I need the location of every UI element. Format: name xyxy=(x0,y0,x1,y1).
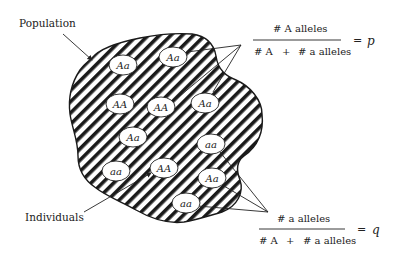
genotype-label: Aa xyxy=(125,132,139,143)
q-denominator-left: # A xyxy=(259,235,279,246)
q-denominator-right: # a alleles xyxy=(303,235,356,246)
genotype-label: Aa xyxy=(204,173,218,184)
population-label: Population xyxy=(19,17,76,29)
genotype-label: Aa xyxy=(197,98,211,109)
q-denominator-plus: + xyxy=(286,235,294,246)
individual-aa: AA xyxy=(150,158,178,178)
individual-aa: Aa xyxy=(159,47,187,67)
individual-aa: AA xyxy=(106,94,134,114)
genotype-label: Aa xyxy=(115,60,129,71)
p-denominator-left: # A xyxy=(254,46,274,57)
p-variable: p xyxy=(367,34,375,48)
genotype-label: aa xyxy=(205,139,217,150)
formula-q: # a alleles # A + # a alleles = q xyxy=(259,213,380,246)
population-arrow xyxy=(63,34,92,60)
q-equals: = xyxy=(357,223,366,236)
individual-aa: aa xyxy=(172,193,200,213)
p-numerator: # A alleles xyxy=(273,23,327,34)
individual-aa: Aa xyxy=(109,55,137,75)
individual-aa: aa xyxy=(197,134,225,154)
individual-aa: aa xyxy=(102,161,130,181)
genotype-label: AA xyxy=(153,102,168,113)
genotype-label: AA xyxy=(156,163,171,174)
individual-aa: Aa xyxy=(119,127,147,147)
p-denominator-plus: + xyxy=(282,46,290,57)
allele-frequency-diagram: Population Individuals AaAaAAAAAaAaaaaaA… xyxy=(0,0,400,259)
genotype-label: AA xyxy=(112,99,127,110)
genotype-label: aa xyxy=(110,166,122,177)
individuals-label: Individuals xyxy=(25,211,84,223)
individual-aa: AA xyxy=(147,97,175,117)
p-denominator-right: # a alleles xyxy=(298,46,351,57)
q-numerator: # a alleles xyxy=(277,213,330,224)
genotype-label: Aa xyxy=(165,52,179,63)
genotype-label: aa xyxy=(180,198,192,209)
q-variable: q xyxy=(372,223,380,237)
individual-aa: Aa xyxy=(191,93,219,113)
p-equals: = xyxy=(353,34,362,47)
individual-aa: Aa xyxy=(198,168,226,188)
formula-p: # A alleles # A + # a alleles = p xyxy=(253,23,375,57)
